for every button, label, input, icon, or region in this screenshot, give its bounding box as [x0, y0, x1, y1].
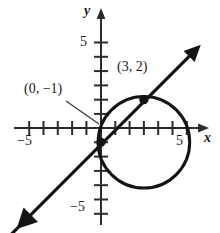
- y-axis-label: y: [84, 4, 90, 18]
- figure-background: [0, 0, 220, 233]
- x-axis-label: x: [204, 131, 211, 145]
- graph-canvas: [0, 0, 220, 233]
- y-tick-label-5: 5: [80, 35, 87, 49]
- x-tick-label-neg5: −5: [17, 134, 32, 148]
- y-tick-label-neg5: −5: [70, 200, 85, 214]
- point-label-0-neg1: (0, −1): [24, 82, 62, 96]
- point-label-3-2: (3, 2): [117, 60, 147, 74]
- point-marker-3-2: [139, 95, 148, 104]
- x-tick-label-5: 5: [176, 134, 183, 148]
- point-marker-0-neg1: [96, 138, 105, 147]
